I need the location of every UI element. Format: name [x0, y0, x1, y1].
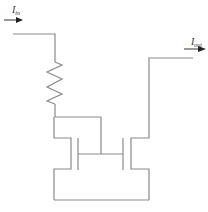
transistor-m1-icon — [54, 117, 71, 200]
transistor-m2-icon — [131, 58, 193, 200]
output-current-label: Iout — [191, 37, 202, 48]
output-current-subscript: out — [194, 42, 202, 48]
resistor-icon — [47, 62, 62, 104]
input-current-arrow-icon — [4, 17, 23, 23]
input-current-label: Iin — [12, 5, 20, 16]
input-current-subscript: in — [15, 10, 20, 16]
circuit-diagram — [0, 0, 208, 212]
input-wire — [13, 34, 55, 62]
